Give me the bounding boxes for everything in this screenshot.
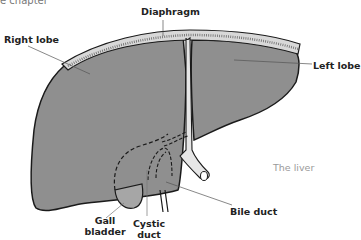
- label-gall-bladder: Gall bladder: [80, 215, 130, 237]
- label-cystic-duct-line1: Cystic: [127, 218, 171, 229]
- label-right-lobe: Right lobe: [4, 34, 59, 45]
- label-diaphragm: Diaphragm: [141, 6, 200, 17]
- label-cystic-duct: Cystic duct: [127, 218, 171, 240]
- label-gall-bladder-line2: bladder: [80, 226, 130, 237]
- label-gall-bladder-line1: Gall: [80, 215, 130, 226]
- label-bile-duct: Bile duct: [230, 206, 277, 217]
- vessel-end: [201, 172, 208, 181]
- figure-caption: The liver: [273, 162, 314, 173]
- leader-bile-duct: [166, 182, 232, 205]
- label-cystic-duct-line2: duct: [127, 229, 171, 240]
- left-lobe-shape: [191, 40, 299, 140]
- label-left-lobe: Left lobe: [313, 60, 361, 71]
- right-lobe-shape: [31, 36, 186, 211]
